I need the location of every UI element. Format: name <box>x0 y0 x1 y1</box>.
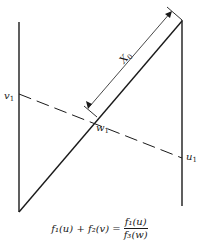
equation-fraction: f₁(u) f₃(w) <box>124 216 148 241</box>
w1-label: w1 <box>96 122 109 135</box>
equation-numerator: f₁(u) <box>124 216 148 229</box>
arrowhead-upper-icon <box>165 11 172 18</box>
u1-label: u1 <box>186 151 197 164</box>
w-scale-axis <box>19 21 182 212</box>
equation-denominator: f₃(w) <box>124 229 148 241</box>
nomogram-diagram: v1 u1 w1 X0 <box>0 0 199 245</box>
nomogram-equation: f₁(u) + f₂(v) = f₁(u) f₃(w) <box>0 212 199 245</box>
equation-lhs: f₁(u) + f₂(v) = <box>51 223 120 234</box>
v1-label: v1 <box>4 90 14 103</box>
arrowhead-lower-icon <box>86 101 92 109</box>
x0-label: X0 <box>117 49 135 67</box>
x0-lower-tick <box>84 106 97 117</box>
